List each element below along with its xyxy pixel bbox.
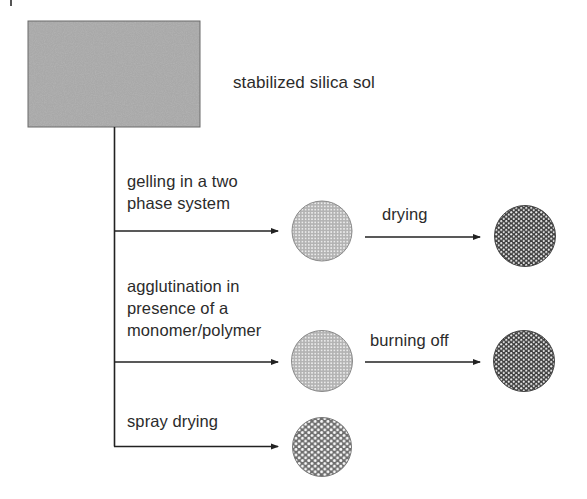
- silica-particle-process-diagram: stabilized silica sol gelling in a two p…: [0, 0, 587, 499]
- route-label-two-phase: gelling in a two phase system: [127, 170, 238, 214]
- step-label-drying: drying: [382, 203, 428, 225]
- route-label-agglutination: agglutination in presence of a monomer/p…: [127, 275, 261, 341]
- silica-sol-box: [28, 21, 200, 127]
- label-line: presence of a: [127, 297, 261, 319]
- dried-particle-icon: [495, 206, 556, 267]
- agglutinated-particle-icon: [292, 331, 353, 392]
- label-line: gelling in a two: [127, 170, 238, 192]
- gel-particle-icon: [292, 201, 352, 261]
- source-label: stabilized silica sol: [233, 72, 375, 94]
- label-line: monomer/polymer: [127, 319, 261, 341]
- route-label-spray: spray drying: [127, 410, 218, 432]
- label-line: phase system: [127, 192, 238, 214]
- spray-dried-particle-icon: [293, 418, 352, 477]
- burnt-particle-icon: [494, 331, 555, 392]
- label-line: spray drying: [127, 410, 218, 432]
- label-line: agglutination in: [127, 275, 261, 297]
- step-label-burning-off: burning off: [370, 329, 449, 351]
